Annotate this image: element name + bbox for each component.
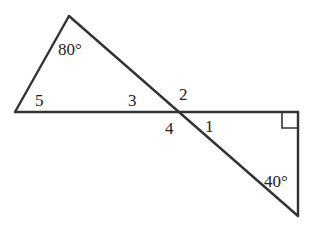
angle-label-5: 5 xyxy=(35,91,44,110)
angle-label-3: 3 xyxy=(128,91,137,110)
angle-label-1: 1 xyxy=(205,117,214,136)
angle-label-80: 80° xyxy=(58,40,82,59)
angle-label-40: 40° xyxy=(264,172,288,191)
geometry-diagram: 80° 5 3 2 4 1 40° xyxy=(0,0,314,225)
right-angle-marker-icon xyxy=(282,112,298,128)
angle-label-2: 2 xyxy=(179,85,188,104)
angle-label-4: 4 xyxy=(165,119,174,138)
